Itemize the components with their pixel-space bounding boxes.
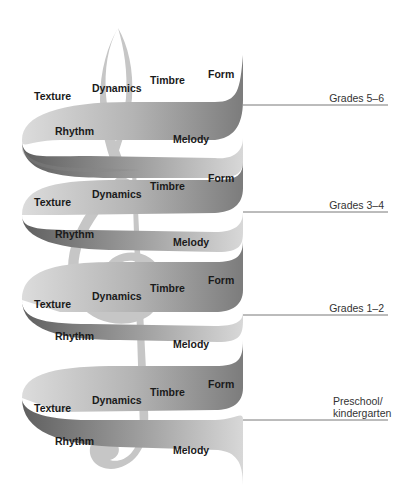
label-dynamics: Dynamics: [92, 188, 142, 200]
grade-label: Grades 1–2: [329, 302, 384, 314]
label-texture: Texture: [34, 402, 71, 414]
label-rhythm: Rhythm: [55, 435, 94, 447]
label-form: Form: [208, 68, 234, 80]
grade-label: Grades 5–6: [329, 92, 384, 104]
label-timbre: Timbre: [150, 386, 185, 398]
label-timbre: Timbre: [150, 180, 185, 192]
label-form: Form: [208, 274, 234, 286]
label-rhythm: Rhythm: [55, 330, 94, 342]
spiral-curriculum-diagram: Texture Dynamics Timbre Form Rhythm Melo…: [0, 0, 405, 495]
label-dynamics: Dynamics: [92, 82, 142, 94]
label-dynamics: Dynamics: [92, 394, 142, 406]
label-form: Form: [208, 378, 234, 390]
grade-label: Grades 3–4: [329, 199, 384, 211]
label-rhythm: Rhythm: [55, 125, 94, 137]
coil-grades-5-6: [22, 55, 388, 178]
label-timbre: Timbre: [150, 74, 185, 86]
grade-label-line1: Preschool/: [333, 395, 383, 407]
grade-label-line2: kindergarten: [333, 407, 392, 419]
label-form: Form: [208, 172, 234, 184]
label-rhythm: Rhythm: [55, 228, 94, 240]
label-texture: Texture: [34, 298, 71, 310]
label-texture: Texture: [34, 90, 71, 102]
label-melody: Melody: [173, 444, 209, 456]
label-texture: Texture: [34, 196, 71, 208]
label-timbre: Timbre: [150, 282, 185, 294]
label-melody: Melody: [173, 133, 209, 145]
label-dynamics: Dynamics: [92, 290, 142, 302]
label-melody: Melody: [173, 236, 209, 248]
label-melody: Melody: [173, 338, 209, 350]
